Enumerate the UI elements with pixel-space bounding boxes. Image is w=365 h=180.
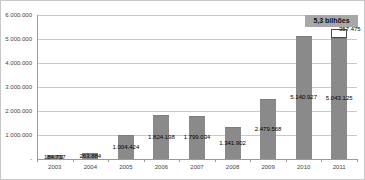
x-axis-tick-label: 2011 — [333, 164, 346, 170]
y-axis-tick-label: 2.000.000 — [1, 108, 32, 114]
x-axis-tickmark — [144, 159, 145, 162]
x-axis-tickmark — [179, 159, 180, 162]
y-axis-tick-label: - — [1, 156, 32, 162]
x-axis-tickmark — [37, 159, 38, 162]
x-axis-tick-label: 2008 — [226, 164, 239, 170]
bar-value-label: 5.043.125 — [326, 95, 353, 101]
y-axis-line — [37, 15, 38, 159]
bar-chart: 6.000.0005.000.0004.000.0003.000.0002.00… — [0, 0, 365, 180]
x-axis-tickmark — [286, 159, 287, 162]
bar-value-label: 1.004.424 — [113, 144, 140, 150]
x-axis-tick-label: 2006 — [155, 164, 168, 170]
y-axis-tick-label: 4.000.000 — [1, 60, 32, 66]
bar-value-label: 1.799.034 — [184, 134, 211, 140]
x-axis-tickmark — [321, 159, 322, 162]
x-axis-tick-label: 2007 — [190, 164, 203, 170]
bar-value-label: 1.824.198 — [148, 134, 175, 140]
x-axis-tickmark — [73, 159, 74, 162]
y-axis-tick-label: 5.000.000 — [1, 36, 32, 42]
bar-value-label: 184.717 — [44, 154, 66, 160]
x-axis-tickmark — [250, 159, 251, 162]
x-axis-tick-label: 2010 — [297, 164, 310, 170]
bar-value-label: 1.341.902 — [219, 140, 246, 146]
white-segment-value-label: 357.475 — [339, 26, 361, 33]
x-axis-tick-label: 2009 — [261, 164, 274, 170]
bar-value-label: 263.884 — [79, 153, 101, 159]
x-axis-tickmark — [108, 159, 109, 162]
y-axis-tick-label: 1.000.000 — [1, 132, 32, 138]
x-axis-tick-label: 2005 — [119, 164, 132, 170]
x-axis-tick-label: 2003 — [48, 164, 61, 170]
x-axis-tick-label: 2004 — [84, 164, 97, 170]
y-axis-tick-label: 6.000.000 — [1, 12, 32, 18]
bar-value-label: 2.479.568 — [255, 126, 282, 132]
bar-value-label: 5.140.927 — [290, 94, 317, 100]
x-axis-tickmark — [215, 159, 216, 162]
y-axis-tick-label: 3.000.000 — [1, 84, 32, 90]
x-axis-line — [37, 159, 357, 160]
x-axis-tickmark — [357, 159, 358, 162]
